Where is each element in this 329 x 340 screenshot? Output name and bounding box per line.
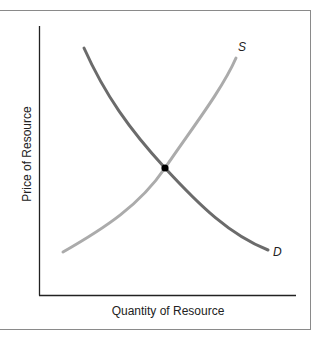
chart-canvas [0,0,329,340]
supply-curve [63,58,236,252]
demand-label: D [273,245,282,259]
y-axis-label: Price of Resource [20,106,34,201]
equilibrium-point [161,164,168,171]
supply-label: S [238,40,246,54]
x-axis-label: Quantity of Resource [112,304,225,318]
